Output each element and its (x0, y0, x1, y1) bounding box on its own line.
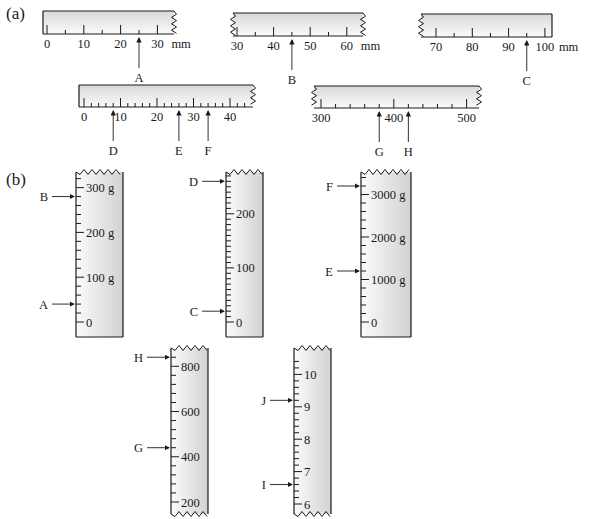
tick-label: 20 (151, 110, 164, 124)
tick-label: 800 (181, 360, 200, 374)
ruler-3: 708090100mmC (419, 14, 579, 88)
tick-label: 70 (430, 40, 443, 54)
tick-label: 600 (181, 405, 200, 419)
tick-label: 90 (502, 40, 515, 54)
tick-label: 30 (151, 37, 164, 51)
tick-label: 400 (384, 111, 403, 125)
tick-label: 30 (231, 39, 244, 53)
tick-label: 8 (304, 433, 310, 447)
marker-label-h: H (134, 351, 143, 365)
marker-label-h: H (404, 145, 413, 159)
marker-label-i: I (262, 478, 266, 492)
tick-label: 7 (304, 465, 310, 479)
measurement-figure: 0102030mmA30405060mmB708090100mmC0102030… (0, 0, 590, 519)
ruler-2: 30405060mmB (231, 13, 381, 87)
tick-label: 30 (187, 110, 200, 124)
ruler-4: 010203040DEF (79, 85, 256, 158)
tick-label: 40 (224, 110, 237, 124)
marker-label-b: B (288, 73, 296, 87)
tick-label: 100 (236, 261, 255, 275)
marker-label-f: F (205, 144, 212, 158)
vertical-scales: 0100 g200 g300 gBA0100200DC01000 g2000 g… (39, 170, 411, 517)
tick-label: 3000 g (371, 188, 406, 202)
tick-label: 9 (304, 400, 310, 414)
tick-label: 2000 g (371, 231, 406, 245)
tick-label: 10 (304, 368, 317, 382)
unit-label: mm (559, 40, 579, 54)
tick-label: 80 (466, 40, 479, 54)
tick-label: 500 (457, 111, 476, 125)
tick-label: 300 g (86, 181, 115, 195)
tick-label: 40 (267, 39, 280, 53)
tick-label: 100 g (86, 271, 115, 285)
scale-4: 200400600800HG (134, 346, 208, 517)
marker-label-c: C (190, 305, 198, 319)
scale-2: 0100200DC (189, 170, 263, 338)
marker-label-d: D (189, 175, 198, 189)
ruler-5: 300400500GH (312, 86, 482, 159)
tick-label: 6 (304, 498, 310, 512)
marker-label-f: F (326, 180, 333, 194)
marker-label-e: E (175, 144, 183, 158)
marker-label-c: C (523, 74, 531, 88)
unit-label: mm (361, 39, 381, 53)
tick-label: 200 g (86, 226, 115, 240)
tick-label: 200 (236, 207, 255, 221)
tick-label: 60 (341, 39, 354, 53)
tick-label: 1000 g (371, 273, 406, 287)
tick-label: 200 (181, 496, 200, 510)
scale-5: 678910JI (261, 346, 331, 517)
tick-label: 0 (371, 316, 377, 330)
tick-label: 10 (114, 110, 127, 124)
marker-label-a: A (39, 298, 48, 312)
scale-1: 0100 g200 g300 gBA (39, 170, 123, 338)
horizontal-rulers: 0102030mmA30405060mmB708090100mmC0102030… (43, 11, 579, 159)
tick-label: 10 (78, 37, 91, 51)
tick-label: 0 (81, 110, 87, 124)
marker-label-e: E (325, 265, 333, 279)
scale-3: 01000 g2000 g3000 gFE (325, 170, 411, 338)
tick-label: 400 (181, 450, 200, 464)
tick-label: 0 (44, 37, 50, 51)
tick-label: 100 (536, 40, 555, 54)
tick-label: 50 (304, 39, 317, 53)
marker-label-g: G (375, 145, 384, 159)
tick-label: 300 (312, 111, 331, 125)
marker-label-a: A (134, 71, 143, 85)
marker-label-g: G (134, 441, 143, 455)
tick-label: 0 (86, 316, 92, 330)
marker-label-b: B (40, 190, 48, 204)
tick-label: 20 (114, 37, 127, 51)
tick-label: 0 (236, 316, 242, 330)
marker-label-j: J (261, 394, 266, 408)
ruler-1: 0102030mmA (43, 11, 191, 85)
unit-label: mm (171, 37, 191, 51)
marker-label-d: D (109, 144, 118, 158)
